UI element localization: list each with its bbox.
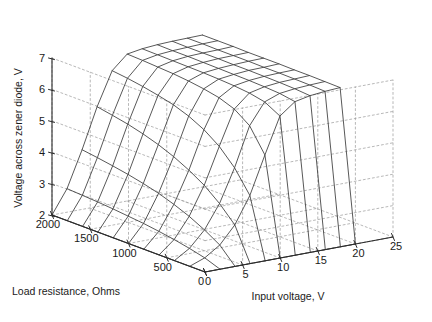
x-axis-line — [205, 237, 393, 272]
mesh-line-constant-resistance — [144, 70, 294, 249]
wall-gridline-horizontal-right — [205, 174, 393, 209]
y-tick-label: 1000 — [112, 247, 136, 259]
y-tick-label: 500 — [154, 261, 172, 273]
right-back-wall-grid — [205, 80, 393, 272]
x-tick-label: 0 — [205, 275, 211, 287]
floor-grid — [52, 180, 393, 272]
mesh-line-constant-voltage — [187, 38, 340, 247]
mesh-line-constant-voltage — [82, 150, 235, 267]
axis-lines — [52, 58, 393, 272]
z-tick-label: 6 — [39, 83, 45, 95]
mesh-line-constant-resistance — [113, 58, 263, 238]
z-tick-label: 4 — [39, 146, 45, 158]
x-tick-label: 5 — [243, 268, 249, 280]
z-axis-title: Voltage across zener diode, V — [12, 68, 24, 208]
z-tick-label: 7 — [39, 52, 45, 64]
floor-gridline-y — [129, 209, 317, 244]
figure-canvas: 05101520252000150010005000234567 Input v… — [0, 0, 432, 322]
x-axis-title: Input voltage, V — [252, 290, 325, 302]
x-tick-label: 20 — [352, 247, 364, 259]
tick-labels: 05101520252000150010005000234567 — [36, 52, 402, 287]
x-tick-label: 15 — [315, 254, 327, 266]
mesh-line-constant-resistance — [67, 41, 217, 221]
y-tick-label: 0 — [198, 275, 204, 287]
wall-gridline-horizontal-right — [205, 143, 393, 178]
x-tick-label: 25 — [390, 240, 402, 252]
zener-diode-3d-mesh-plot: 05101520252000150010005000234567 Input v… — [0, 0, 432, 322]
z-tick-label: 5 — [39, 115, 45, 127]
x-tick-label: 10 — [277, 261, 289, 273]
y-axis-title: Load resistance, Ohms — [12, 285, 120, 297]
mesh-line-constant-resistance — [159, 76, 309, 255]
y-tick-label: 1500 — [74, 232, 98, 244]
floor-gridline-x — [240, 180, 393, 237]
z-tick-label: 2 — [39, 209, 45, 221]
z-tick-label: 3 — [39, 178, 45, 190]
